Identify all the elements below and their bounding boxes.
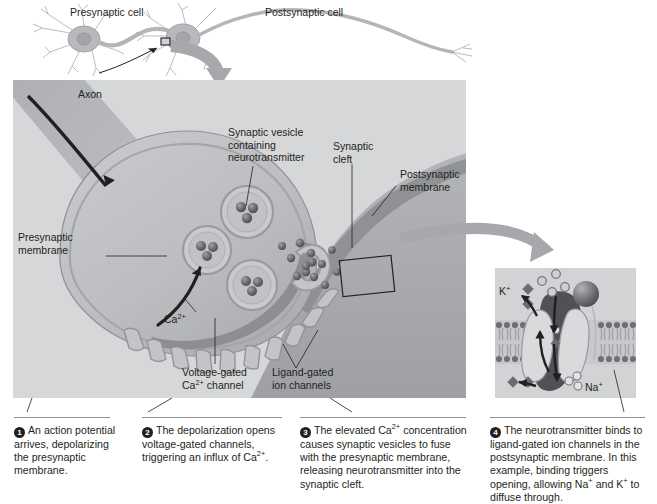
label-presynaptic-membrane: Presynapticmembrane <box>18 231 73 256</box>
caption-step-1: 1An action potential arrives, depolarizi… <box>14 424 118 478</box>
bound-neurotransmitter <box>573 281 599 307</box>
label-sodium: Na+ <box>585 381 603 394</box>
vesicle <box>183 226 231 274</box>
nucleus-left <box>77 33 91 45</box>
label-synaptic-vesicle: Synaptic vesiclecontainingneurotransmitt… <box>228 126 304 164</box>
synapse-highlight-box <box>161 38 170 45</box>
vesicle <box>227 260 277 310</box>
label-calcium-ion: Ca2+ <box>164 313 186 326</box>
caption-step-2: 2The depolarization opens voltage-gated … <box>142 424 287 464</box>
label-postsynaptic-membrane: Postsynapticmembrane <box>400 168 460 193</box>
step-text: The elevated Ca2+ concentration causes s… <box>300 424 467 490</box>
label-synaptic-cleft: Synapticcleft <box>333 140 373 165</box>
step-text: An action potential arrives, depolarizin… <box>14 424 115 476</box>
caption-step-4: 4The neurotransmitter binds to ligand-ga… <box>490 424 650 504</box>
step-badge: 2 <box>142 427 153 438</box>
caption-step-3: 3The elevated Ca2+ concentration causes … <box>300 424 472 491</box>
label-postsynaptic-cell: Postsynaptic cell <box>265 6 343 19</box>
step-text: The depolarization opens voltage-gated c… <box>142 424 275 463</box>
label-axon: Axon <box>78 88 102 101</box>
label-presynaptic-cell: Presynaptic cell <box>70 6 144 19</box>
axon-edge <box>0 52 70 84</box>
postsynaptic-neuron <box>136 3 216 76</box>
step-text: The neurotransmitter binds to ligand-gat… <box>490 424 642 503</box>
step-badge: 4 <box>490 427 501 438</box>
label-potassium: K+ <box>499 285 510 298</box>
vesicle <box>221 186 273 238</box>
caption-rule <box>490 417 645 418</box>
label-voltage-gated-channel: Voltage-gated Ca2+ channel <box>182 366 247 391</box>
terminal-branches <box>452 44 472 62</box>
caption-rule <box>300 417 466 418</box>
label-ligand-gated-channels: Ligand-gatedion channels <box>272 366 333 391</box>
step-badge: 1 <box>14 427 25 438</box>
caption-leader-lines <box>27 398 352 412</box>
pointer-arrow-line <box>99 48 157 73</box>
caption-rule <box>14 417 110 418</box>
step-badge: 3 <box>300 427 311 438</box>
caption-rule <box>142 417 282 418</box>
